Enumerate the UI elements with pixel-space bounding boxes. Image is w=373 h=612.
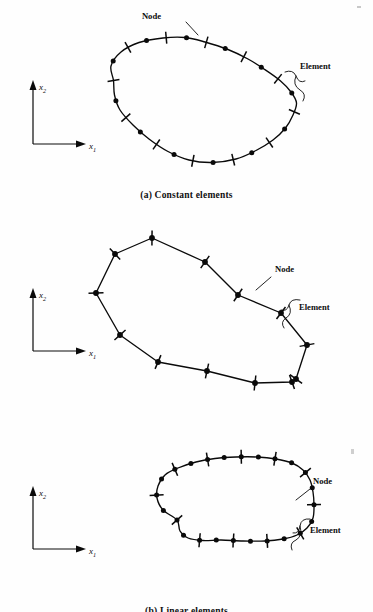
- node-dot-linear: [235, 292, 241, 298]
- x-axis-label-b: x1: [88, 348, 96, 360]
- node-leader-line-a: [186, 22, 198, 35]
- scan-speck-top: [357, 6, 361, 8]
- node-dot-constant: [249, 150, 254, 155]
- node-dot-quadratic-end: [205, 457, 210, 462]
- node-label-a: Node: [142, 11, 161, 21]
- node-markers-b: [93, 235, 310, 386]
- axes-c: x2 x1: [30, 486, 97, 558]
- node-dot-quadratic-end: [265, 538, 270, 543]
- element-annotation-b: Element: [281, 300, 330, 328]
- node-dot-constant: [211, 160, 216, 165]
- element-end-tick: [266, 138, 273, 148]
- element-end-tick: [241, 51, 247, 62]
- node-dot-quadratic-mid: [248, 539, 253, 544]
- element-end-tick: [125, 42, 131, 52]
- y-axis-label-a: x2: [38, 82, 46, 94]
- node-dot-quadratic-mid: [222, 455, 227, 460]
- node-dot-constant: [282, 127, 287, 132]
- node-dot-quadratic-end: [303, 470, 308, 475]
- panel-a-canvas: x2 x1 Node Element: [0, 0, 373, 210]
- element-end-ticks-a: [108, 32, 300, 167]
- element-label-b: Element: [299, 302, 330, 312]
- element-label-c: Element: [310, 525, 341, 535]
- node-dot-quadratic-end: [175, 518, 180, 523]
- node-dot-quadratic-end: [239, 454, 244, 459]
- x-axis-arrow-c: [76, 546, 86, 553]
- boundary-polygon-b: [96, 238, 307, 383]
- node-dot-quadratic-end: [154, 493, 159, 498]
- node-dot-quadratic-end: [312, 502, 317, 507]
- y-axis-arrow-b: [30, 288, 37, 298]
- x-axis-arrow-b: [76, 348, 86, 355]
- element-brace-a: [285, 71, 305, 101]
- node-dot-quadratic-end: [231, 538, 236, 543]
- node-dot-quadratic-end: [172, 467, 177, 472]
- node-dot-linear: [304, 342, 310, 348]
- y-axis-arrow-a: [30, 80, 37, 90]
- element-brace-c: [291, 519, 310, 550]
- node-annotation-a: Node: [142, 11, 198, 35]
- node-dot-linear: [117, 332, 123, 338]
- panel-b-canvas: x2 x1 Node Element: [0, 210, 373, 415]
- y-axis-label-b: x2: [38, 290, 46, 302]
- node-dot-quadratic-mid: [181, 533, 186, 538]
- node-leader-line-c: [296, 489, 310, 500]
- node-dot-constant: [113, 98, 118, 103]
- boundary-curve-c: [157, 457, 314, 541]
- element-label-a: Element: [300, 61, 331, 71]
- element-end-tick: [153, 139, 160, 149]
- node-dot-constant: [138, 129, 143, 134]
- panel-constant-elements: x2 x1 Node Element (a) Constant elements: [0, 0, 373, 210]
- node-dot-constant: [223, 46, 228, 51]
- node-dot-linear: [289, 379, 295, 385]
- x-axis-label-c: x1: [88, 546, 96, 558]
- node-dot-quadratic-mid: [256, 455, 261, 460]
- node-dot-constant: [289, 91, 294, 96]
- node-dot-quadratic-mid: [161, 508, 166, 513]
- node-dot-quadratic-mid: [309, 519, 314, 524]
- figure-page: x2 x1 Node Element (a) Constant elements: [0, 0, 373, 612]
- node-dot-linear: [112, 251, 118, 257]
- element-end-tick: [108, 80, 120, 82]
- axes-b: x2 x1: [30, 288, 97, 360]
- node-dot-quadratic-mid: [188, 461, 193, 466]
- node-label-c: Node: [313, 476, 332, 486]
- caption-a: (a) Constant elements: [0, 190, 373, 200]
- node-dot-quadratic-mid: [282, 536, 287, 541]
- node-dot-constant: [111, 58, 116, 63]
- x-axis-arrow-a: [76, 141, 86, 148]
- scan-speck-mid: [351, 449, 354, 454]
- node-dot-linear: [202, 259, 208, 265]
- node-dot-quadratic-end: [272, 456, 277, 461]
- node-annotation-b: Node: [256, 264, 294, 290]
- node-dot-linear: [93, 290, 99, 296]
- node-dot-constant: [184, 35, 189, 40]
- boundary-curve-a: [111, 37, 297, 162]
- panel-linear-elements: x2 x1 Node Element (b) Linear elements: [0, 210, 373, 415]
- element-end-tick: [166, 32, 167, 44]
- element-end-tick: [274, 74, 281, 83]
- node-markers-a: [111, 35, 295, 165]
- node-dot-constant: [144, 38, 149, 43]
- panel-quadratic-elements: x2 x1 Node Element (c) Quadratic element…: [0, 415, 373, 612]
- node-leader-line-b: [256, 277, 271, 290]
- x-axis-label-a: x1: [88, 141, 96, 153]
- node-dot-constant: [259, 65, 264, 70]
- node-dot-linear: [252, 380, 258, 386]
- axes-a: x2 x1: [30, 80, 97, 153]
- node-dot-quadratic-mid: [289, 460, 294, 465]
- node-label-b: Node: [275, 264, 294, 274]
- node-dot-linear: [204, 368, 210, 374]
- panel-c-canvas: x2 x1 Node Element: [0, 415, 373, 612]
- node-dot-constant: [172, 152, 177, 157]
- node-dot-quadratic-mid: [214, 538, 219, 543]
- y-axis-arrow-c: [30, 486, 37, 496]
- node-dot-linear: [155, 359, 161, 365]
- node-dot-linear: [278, 310, 284, 316]
- node-dot-quadratic-mid: [159, 476, 164, 481]
- node-dot-quadratic-end: [197, 538, 202, 543]
- node-dot-linear: [149, 235, 155, 241]
- y-axis-label-c: x2: [38, 488, 46, 500]
